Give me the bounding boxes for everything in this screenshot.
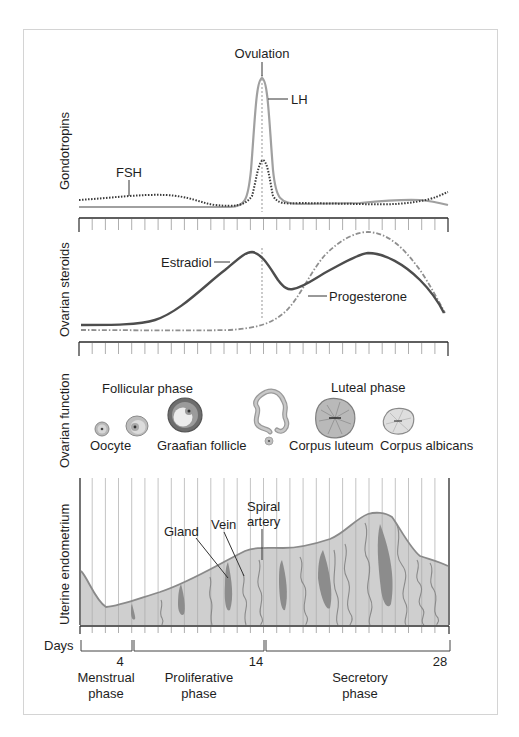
ovulation-label: Ovulation bbox=[235, 46, 290, 61]
menstrual-phase-line1: Menstrual bbox=[77, 670, 134, 685]
ruptured-follicle-icon bbox=[256, 391, 287, 445]
endometrium-day-axis bbox=[80, 626, 449, 634]
ovarian-steroids-panel: Ovarian steroids Estradiol Progesterone bbox=[57, 232, 448, 356]
lh-label: LH bbox=[291, 92, 308, 107]
days-scale: Days 4 14 28 Menstrual phase Proliferati… bbox=[44, 638, 450, 701]
secretory-phase-line1: Secretory bbox=[332, 670, 388, 685]
ovarian-steroids-axis-label: Ovarian steroids bbox=[57, 242, 72, 337]
uterine-endometrium-axis-label: Uterine endometrium bbox=[57, 504, 72, 625]
graafian-follicle-label: Graafian follicle bbox=[157, 438, 247, 453]
progesterone-label: Progesterone bbox=[329, 289, 407, 304]
corpus-albicans-label: Corpus albicans bbox=[380, 438, 474, 453]
vein-label: Vein bbox=[211, 517, 236, 532]
lh-curve bbox=[79, 78, 448, 207]
secretory-bracket bbox=[266, 640, 450, 651]
spiral-label-line2: artery bbox=[247, 514, 281, 529]
luteal-phase-label: Luteal phase bbox=[331, 380, 405, 395]
gonadotropins-panel: Gondotropins Ovulation LH FSH bbox=[57, 46, 448, 232]
endometrium-tissue bbox=[81, 513, 448, 625]
ovarian-function-panel: Ovarian function Follicular phase Luteal… bbox=[57, 373, 474, 468]
corpus-luteum-icon bbox=[316, 398, 355, 437]
proliferative-phase-line2: phase bbox=[181, 686, 216, 701]
estradiol-label: Estradiol bbox=[161, 255, 212, 270]
day-tick-14: 14 bbox=[249, 654, 263, 669]
proliferative-bracket bbox=[134, 640, 264, 651]
secretory-phase-line2: phase bbox=[342, 686, 377, 701]
oocyte-icon bbox=[95, 422, 109, 436]
gonadotropins-day-axis bbox=[79, 218, 448, 232]
fsh-label: FSH bbox=[116, 165, 142, 180]
graafian-follicle-icon bbox=[168, 398, 202, 432]
proliferative-phase-line1: Proliferative bbox=[165, 670, 234, 685]
gonadotropins-axis-label: Gondotropins bbox=[57, 111, 72, 190]
gland-label: Gland bbox=[164, 524, 199, 539]
follicular-phase-label: Follicular phase bbox=[102, 381, 193, 396]
primary-follicle-icon bbox=[126, 416, 148, 436]
menstrual-bracket bbox=[81, 640, 132, 651]
day-tick-4: 4 bbox=[116, 654, 123, 669]
progesterone-curve bbox=[81, 232, 445, 330]
spiral-label-line1: Spiral bbox=[247, 499, 280, 514]
oocyte-label: Oocyte bbox=[90, 438, 131, 453]
steroids-day-axis bbox=[79, 342, 448, 356]
corpus-albicans-icon bbox=[383, 408, 414, 434]
uterine-endometrium-panel: Uterine endometrium bbox=[57, 478, 449, 634]
menstrual-phase-line2: phase bbox=[88, 686, 123, 701]
ovarian-function-axis-label: Ovarian function bbox=[57, 373, 72, 468]
menstrual-cycle-figure: Gondotropins Ovulation LH FSH bbox=[0, 0, 519, 737]
day-tick-28: 28 bbox=[433, 654, 447, 669]
corpus-luteum-label: Corpus luteum bbox=[289, 438, 374, 453]
days-label: Days bbox=[44, 638, 74, 653]
